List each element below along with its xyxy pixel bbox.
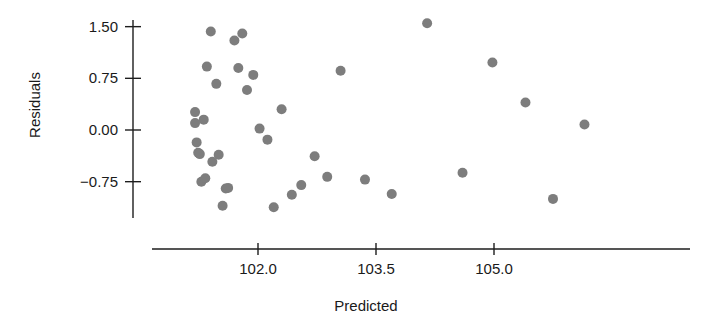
residual-plot: 102.0103.5105.0 1.500.750.00−0.75 Predic… bbox=[0, 0, 705, 331]
data-point bbox=[218, 201, 228, 211]
y-axis-title: Residuals bbox=[26, 72, 43, 138]
y-tick-label: 0.75 bbox=[89, 69, 118, 86]
data-point bbox=[579, 119, 589, 129]
data-point bbox=[296, 180, 306, 190]
data-point bbox=[242, 85, 252, 95]
data-point bbox=[520, 97, 530, 107]
data-point bbox=[233, 63, 243, 73]
data-point bbox=[287, 190, 297, 200]
data-point bbox=[387, 189, 397, 199]
data-point bbox=[336, 66, 346, 76]
data-point bbox=[322, 172, 332, 182]
x-tick-label: 102.0 bbox=[239, 260, 277, 277]
data-point-group bbox=[190, 18, 589, 212]
data-point bbox=[202, 62, 212, 72]
data-point bbox=[199, 115, 209, 125]
data-point bbox=[262, 135, 272, 145]
x-tick-label: 105.0 bbox=[475, 260, 513, 277]
y-tick-label-group: 1.500.750.00−0.75 bbox=[80, 18, 118, 190]
data-point bbox=[277, 104, 287, 114]
data-point bbox=[237, 29, 247, 39]
data-point bbox=[195, 149, 205, 159]
data-point bbox=[360, 175, 370, 185]
y-tick-label: 1.50 bbox=[89, 18, 118, 35]
x-axis-title: Predicted bbox=[334, 297, 397, 314]
data-point bbox=[255, 124, 265, 134]
data-point bbox=[214, 150, 224, 160]
data-point bbox=[422, 18, 432, 28]
x-tick-label: 103.5 bbox=[357, 260, 395, 277]
data-point bbox=[310, 151, 320, 161]
data-point bbox=[248, 70, 258, 80]
data-point bbox=[192, 137, 202, 147]
data-point bbox=[229, 35, 239, 45]
y-axis bbox=[125, 20, 141, 218]
data-point bbox=[211, 79, 221, 89]
data-point bbox=[223, 183, 233, 193]
scatter-plot-canvas: 102.0103.5105.0 1.500.750.00−0.75 Predic… bbox=[0, 0, 705, 331]
y-tick-label: 0.00 bbox=[89, 121, 118, 138]
data-point bbox=[206, 26, 216, 36]
x-tick-label-group: 102.0103.5105.0 bbox=[239, 260, 513, 277]
y-tick-label: −0.75 bbox=[80, 173, 118, 190]
data-point bbox=[487, 57, 497, 67]
data-point bbox=[269, 202, 279, 212]
data-point bbox=[458, 168, 468, 178]
data-point bbox=[190, 107, 200, 117]
data-point bbox=[548, 194, 558, 204]
data-point bbox=[200, 173, 210, 183]
x-axis bbox=[152, 243, 690, 255]
data-point bbox=[190, 118, 200, 128]
